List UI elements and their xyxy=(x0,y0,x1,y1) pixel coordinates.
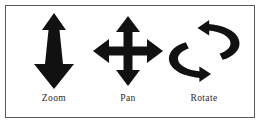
zoom-control[interactable]: Zoom xyxy=(14,10,94,115)
four-way-arrow-icon xyxy=(88,10,168,92)
pan-control[interactable]: Pan xyxy=(88,10,168,115)
circular-rotate-arrows-icon xyxy=(164,10,244,92)
figure-panel: Zoom Pan Rotate xyxy=(5,5,255,118)
navigation-icon-row: Zoom Pan Rotate xyxy=(6,6,254,117)
rotate-label: Rotate xyxy=(164,92,244,104)
vertical-double-arrow-icon xyxy=(14,10,94,92)
rotate-control[interactable]: Rotate xyxy=(164,10,244,115)
pan-label: Pan xyxy=(88,92,168,104)
zoom-label: Zoom xyxy=(14,92,94,104)
